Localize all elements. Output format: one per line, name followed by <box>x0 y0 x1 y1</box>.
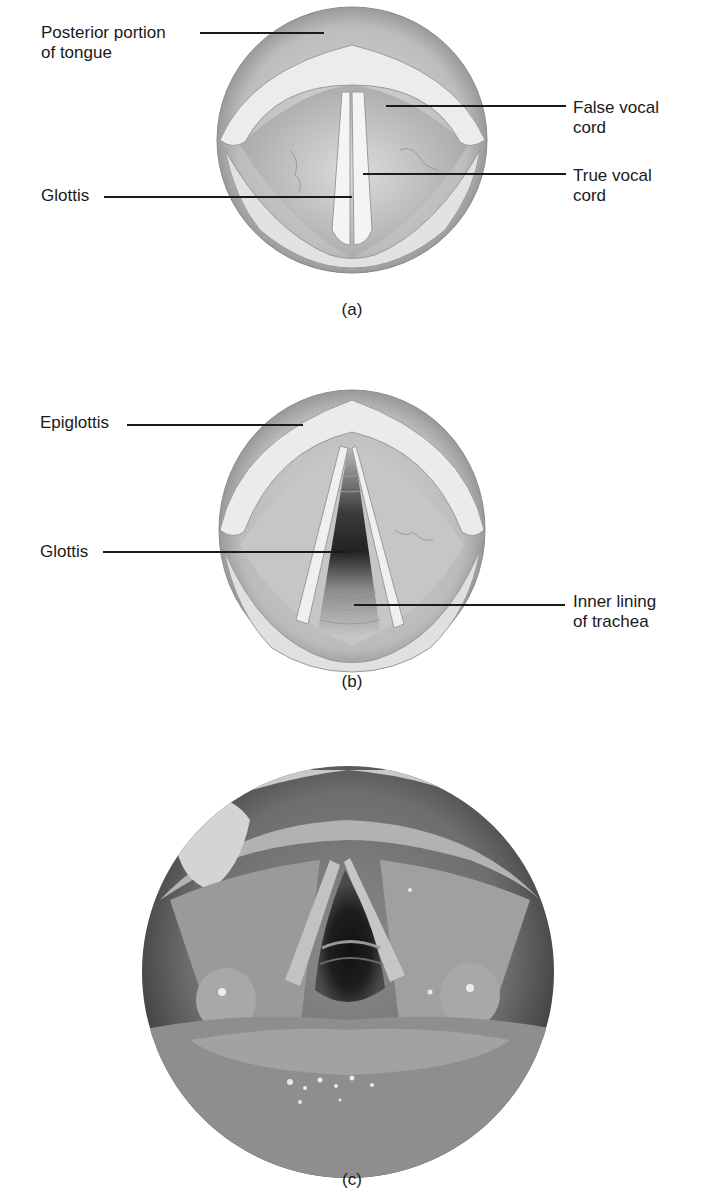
caption-b: (b) <box>322 672 382 692</box>
panel-a: Posterior portion of tongue False vocal … <box>0 0 714 330</box>
laryngoscope-photograph <box>0 730 714 1194</box>
leader-line-true-vocal-cord <box>363 173 566 175</box>
leader-line-inner-lining <box>354 604 565 606</box>
leader-line-epiglottis <box>127 424 303 426</box>
label-glottis-a: Glottis <box>41 186 89 206</box>
label-false-vocal-cord: False vocal cord <box>573 98 659 138</box>
label-true-vocal-cord: True vocal cord <box>573 166 652 206</box>
panel-c: (c) <box>0 730 714 1194</box>
leader-line-false-vocal-cord <box>386 105 566 107</box>
leader-line-glottis-a <box>104 196 352 198</box>
label-epiglottis: Epiglottis <box>40 413 109 433</box>
caption-c: (c) <box>322 1170 382 1190</box>
label-inner-lining-of-trachea: Inner lining of trachea <box>573 592 656 632</box>
caption-a: (a) <box>322 300 382 320</box>
label-posterior-portion-of-tongue: Posterior portion of tongue <box>41 23 166 63</box>
leader-line-tongue <box>200 32 324 34</box>
label-glottis-b: Glottis <box>40 542 88 562</box>
panel-b: Epiglottis Glottis Inner lining of trach… <box>0 380 714 700</box>
leader-line-glottis-b <box>103 551 347 553</box>
